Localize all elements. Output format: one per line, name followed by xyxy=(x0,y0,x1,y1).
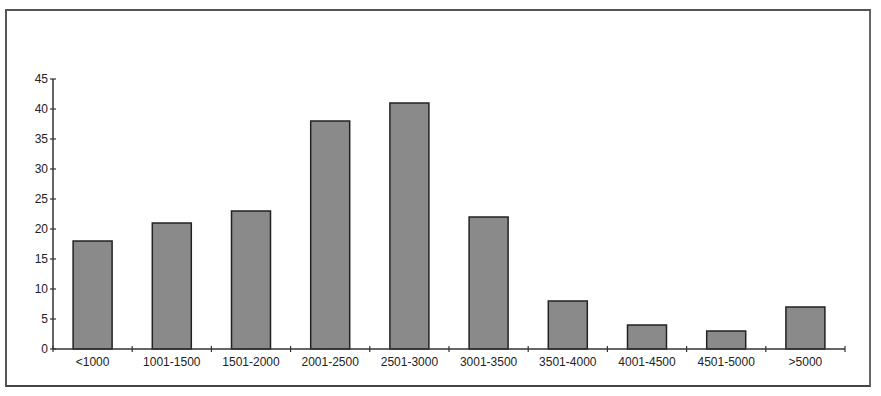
bar-5 xyxy=(469,217,508,349)
bar-6 xyxy=(548,301,587,349)
x-category-label: <1000 xyxy=(76,355,110,369)
y-tick-label: 25 xyxy=(35,192,49,206)
x-category-label: 1501-2000 xyxy=(222,355,280,369)
y-tick-label: 20 xyxy=(35,222,49,236)
bar-9 xyxy=(786,307,825,349)
x-category-label: 2501-3000 xyxy=(381,355,439,369)
bar-8 xyxy=(707,331,746,349)
y-tick-label: 10 xyxy=(35,282,49,296)
x-category-label: 3501-4000 xyxy=(539,355,597,369)
y-tick-label: 0 xyxy=(41,342,48,356)
bars-group xyxy=(73,103,825,349)
y-tick-label: 5 xyxy=(41,312,48,326)
y-tick-label: 35 xyxy=(35,132,49,146)
x-axis: <10001001-15001501-20002001-25002501-300… xyxy=(53,346,845,369)
x-category-label: 1001-1500 xyxy=(143,355,201,369)
x-category-label: 3001-3500 xyxy=(460,355,518,369)
bar-0 xyxy=(73,241,112,349)
bar-2 xyxy=(232,211,271,349)
y-axis: 051015202530354045 xyxy=(35,72,56,356)
x-category-label: 4501-5000 xyxy=(698,355,756,369)
y-tick-label: 40 xyxy=(35,102,49,116)
y-tick-label: 30 xyxy=(35,162,49,176)
bar-4 xyxy=(390,103,429,349)
y-tick-label: 15 xyxy=(35,252,49,266)
x-category-label: 4001-4500 xyxy=(618,355,676,369)
bar-1 xyxy=(152,223,191,349)
bar-7 xyxy=(628,325,667,349)
bar-3 xyxy=(311,121,350,349)
x-category-label: >5000 xyxy=(789,355,823,369)
bar-chart: 051015202530354045 <10001001-15001501-20… xyxy=(0,0,881,396)
x-category-label: 2001-2500 xyxy=(302,355,360,369)
y-tick-label: 45 xyxy=(35,72,49,86)
